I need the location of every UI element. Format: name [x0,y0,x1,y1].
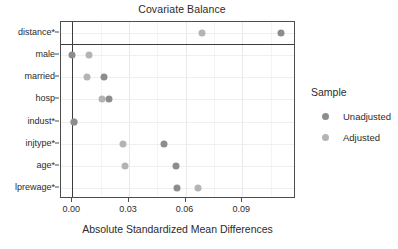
plot-panel [60,21,295,198]
x-tick-label: 0.03 [119,204,137,214]
data-point [160,140,167,147]
zero-reference-line [72,22,73,197]
distance-separator-line [61,44,294,45]
y-tick-mark [55,120,59,121]
legend-items: UnadjustedAdjusted [311,107,391,146]
covariate-balance-figure: Covariate Balance distance*malemarriedho… [0,0,398,249]
x-tick-mark [128,198,129,202]
gridline-horizontal [61,144,294,145]
y-tick-mark [55,32,59,33]
data-point [277,30,284,37]
data-point [172,162,179,169]
x-tick-mark [71,198,72,202]
chart-title: Covariate Balance [69,3,295,15]
legend-item[interactable]: Adjusted [311,128,391,146]
data-point [120,140,127,147]
legend-item-label: Adjusted [343,132,380,143]
gridline-vertical-minor [157,22,158,197]
y-tick-label: hosp [35,93,55,103]
y-tick-label: male [35,49,55,59]
x-tick-label: 0.06 [176,204,194,214]
gridline-horizontal [61,99,294,100]
legend-title: Sample [311,86,391,98]
gridline-vertical-major [129,22,130,197]
gridline-vertical-minor [214,22,215,197]
y-tick-label: injtype* [25,138,55,148]
y-tick-label: indust* [27,116,55,126]
y-tick-mark [55,98,59,99]
data-point [71,118,78,125]
y-tick-label: distance* [18,27,55,37]
x-tick-mark [241,198,242,202]
y-tick-label: age* [36,160,55,170]
data-point [101,74,108,81]
y-tick-mark [55,54,59,55]
legend-item-label: Unadjusted [343,111,391,122]
data-point [122,162,129,169]
gridline-horizontal [61,55,294,56]
data-point [84,74,91,81]
y-tick-label: married [24,71,55,81]
data-point [105,96,112,103]
legend-swatch-circle-icon [317,113,333,120]
gridline-horizontal [61,77,294,78]
y-tick-label: lprewage* [15,182,55,192]
gridline-vertical-minor [101,22,102,197]
data-point [198,30,205,37]
x-axis-title: Absolute Standardized Mean Differences [60,223,295,235]
x-tick-label: 0.09 [232,204,250,214]
legend-swatch-circle-icon [317,134,333,141]
legend: Sample UnadjustedAdjusted [311,86,391,149]
gridline-horizontal [61,33,294,34]
gridline-vertical-minor [271,22,272,197]
data-point [174,184,181,191]
gridline-vertical-major [186,22,187,197]
legend-item[interactable]: Unadjusted [311,107,391,125]
y-tick-mark [55,186,59,187]
gridline-vertical-major [242,22,243,197]
gridline-horizontal [61,122,294,123]
data-point [194,184,201,191]
y-tick-mark [55,164,59,165]
y-tick-mark [55,142,59,143]
x-tick-label: 0.00 [63,204,81,214]
x-tick-mark [185,198,186,202]
y-axis-labels: distance*malemarriedhospindust*injtype*a… [0,21,55,198]
data-point [69,52,76,59]
data-point [85,52,92,59]
y-tick-mark [55,76,59,77]
